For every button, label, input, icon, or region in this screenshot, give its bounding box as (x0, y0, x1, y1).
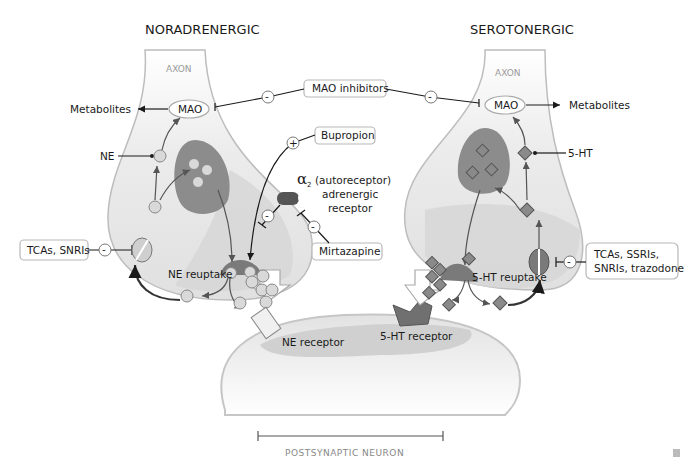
metabolites-left-label: Metabolites (70, 103, 131, 115)
noradrenergic-neuron (108, 50, 312, 300)
alpha2-label-line2: adrenergic (322, 188, 378, 200)
svg-text:-: - (265, 90, 269, 102)
tcas-ssris-label-line1: TCAs, SSRIs, (593, 248, 659, 260)
svg-text:2: 2 (307, 181, 311, 189)
alpha2-label-line3: receptor (328, 202, 373, 214)
ne-receptor-label: NE receptor (282, 336, 345, 348)
mao-inhibitor-left-line (215, 89, 304, 107)
tcas-ssris-label-line2: SNRIs, trazodone (594, 262, 684, 274)
bupropion-label: Bupropion (321, 129, 375, 141)
mao-right-label: MAO (494, 99, 518, 111)
ne-reuptake-label: NE reuptake (168, 268, 232, 280)
ne-label: NE (100, 150, 115, 162)
axon-label-left: AXON (166, 64, 192, 74)
corner-icon (673, 449, 680, 457)
mirtazapine-label: Mirtazapine (319, 245, 381, 257)
mao-left-label: MAO (178, 103, 202, 115)
diagram-canvas: NORADRENERGIC SEROTONERGIC AXON AXON MAO… (0, 0, 698, 471)
tcas-snris-label: TCAs, SNRIs (26, 244, 90, 256)
alpha2-label-line1: (autoreceptor) (315, 174, 391, 186)
svg-text:-: - (428, 90, 432, 102)
svg-text:-: - (102, 243, 106, 255)
svg-text:+: + (289, 137, 298, 149)
five-ht-receptor-label: 5-HT receptor (380, 330, 453, 342)
ne-molecule (154, 150, 166, 162)
five-ht-receptor-shape (393, 300, 432, 326)
svg-text:-: - (311, 220, 315, 232)
postsynaptic-neuron-label: POSTSYNAPTIC NEURON (285, 448, 404, 458)
serotonergic-neuron (405, 50, 583, 290)
mao-inhibitors-label: MAO inhibitors (312, 82, 389, 94)
five-ht-label: 5-HT (568, 147, 593, 159)
title-noradrenergic: NORADRENERGIC (145, 22, 260, 37)
svg-text:-: - (265, 209, 269, 221)
alpha2-symbol: α (297, 170, 307, 188)
metabolites-right-label: Metabolites (569, 99, 630, 111)
axon-label-right: AXON (495, 68, 521, 78)
svg-text:-: - (567, 255, 571, 267)
title-serotonergic: SEROTONERGIC (470, 22, 574, 37)
alpha2-receptor-shape (277, 192, 299, 205)
